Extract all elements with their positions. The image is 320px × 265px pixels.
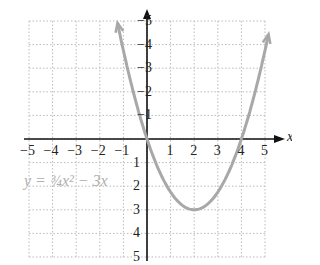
x-tick-label: −1 [114, 144, 129, 158]
y-tick-label: −4 [137, 38, 152, 52]
x-tick-label: −3 [67, 144, 82, 158]
x-tick-label: 5 [261, 144, 268, 158]
y-tick-label: −2 [137, 85, 152, 99]
y-tick-label: −1 [137, 108, 152, 122]
x-tick-label: 2 [190, 144, 197, 158]
y-tick-label: 5 [133, 250, 140, 264]
x-tick-label: −5 [20, 144, 35, 158]
y-tick-label: 2 [133, 179, 140, 193]
x-tick-label: 1 [167, 144, 174, 158]
y-tick-label: −3 [137, 61, 152, 75]
x-tick-label: −4 [44, 144, 59, 158]
y-tick-label: 1 [133, 156, 140, 170]
x-axis-label: x [287, 130, 292, 144]
equation-label: y = ¾x² − 3x [24, 172, 108, 190]
x-tick-label: −2 [91, 144, 106, 158]
x-tick-label: 3 [214, 144, 221, 158]
x-tick-label: 4 [237, 144, 244, 158]
y-tick-label: 4 [133, 226, 140, 240]
y-tick-label: 3 [133, 203, 140, 217]
y-tick-label: −5 [137, 14, 152, 28]
